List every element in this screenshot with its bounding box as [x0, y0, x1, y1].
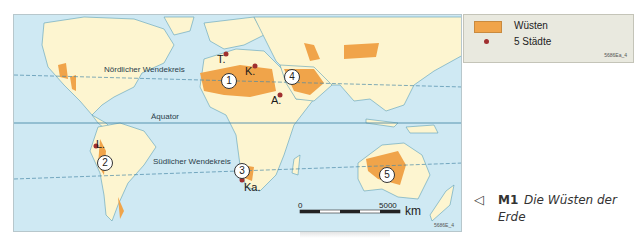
- city-dot-icon: [484, 39, 489, 44]
- map-code: 5686E_4: [434, 222, 454, 228]
- figure-number: M1: [498, 193, 518, 207]
- legend-label-cities: 5 Städte: [514, 36, 551, 47]
- south-tropic-label: Südlicher Wendekreis: [153, 158, 231, 166]
- desert-number-4: 4: [284, 69, 300, 85]
- equator-label: Äquator: [151, 113, 179, 121]
- world-desert-map: Nördlicher Wendekreis Äquator Südlicher …: [13, 14, 462, 232]
- city-label-kairo: K.: [245, 66, 255, 77]
- scale-start: 0: [298, 201, 302, 210]
- desert-number-3: 3: [234, 163, 250, 179]
- page-shadow: [300, 232, 390, 238]
- map-legend: Wüsten 5 Städte 5686Ea_4: [463, 14, 634, 63]
- map-graphic: [14, 15, 462, 232]
- pointer-triangle-icon: ◁: [474, 192, 484, 207]
- city-label-tripolis: T.: [217, 54, 226, 65]
- scale-unit: km: [405, 204, 421, 218]
- desert-swatch-icon: [474, 21, 502, 33]
- city-label-aden: A.: [271, 95, 281, 106]
- city-label-lima: L.: [96, 139, 105, 150]
- figure-title-line1: Die Wüsten der: [524, 193, 617, 207]
- figure-title-line2: Erde: [498, 210, 526, 224]
- legend-code: 5686Ea_4: [604, 52, 627, 58]
- legend-label-deserts: Wüsten: [514, 20, 548, 31]
- desert-number-1: 1: [221, 73, 237, 89]
- north-tropic-label: Nördlicher Wendekreis: [104, 66, 185, 74]
- desert-number-2: 2: [97, 155, 113, 171]
- desert-number-5: 5: [379, 167, 395, 183]
- city-label-kapstadt: Ka.: [244, 182, 261, 193]
- scale-end: 5000: [379, 201, 397, 210]
